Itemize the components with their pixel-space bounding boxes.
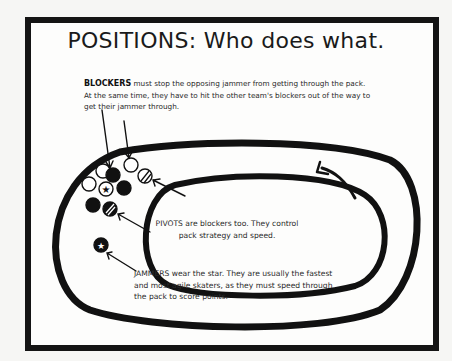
jammers-description: JAMMERS wear the star. They are usually … — [134, 268, 344, 303]
svg-text:★: ★ — [102, 184, 111, 195]
white-blocker-icon — [124, 158, 138, 172]
white-jammer-icon: ★ — [99, 182, 113, 196]
black-blocker-icon — [117, 181, 131, 195]
black-blocker-icon — [86, 198, 100, 212]
svg-text:★: ★ — [97, 241, 105, 251]
white-blocker-icon — [82, 177, 96, 191]
white-pivot-icon — [138, 169, 152, 183]
black-jammer-icon: ★ — [94, 238, 108, 252]
black-blocker-icon — [106, 168, 120, 182]
skater-pack: ★ ★ — [82, 158, 152, 252]
pivots-description: PIVOTS are blockers too. They control pa… — [152, 218, 302, 241]
blockers-description: BLOCKERS must stop the opposing jammer f… — [84, 78, 374, 113]
blockers-label: BLOCKERS — [84, 79, 131, 88]
page-title: POSITIONS: Who does what. — [0, 28, 452, 53]
black-pivot-icon — [103, 202, 117, 216]
track-diagram: ★ ★ — [0, 0, 452, 361]
